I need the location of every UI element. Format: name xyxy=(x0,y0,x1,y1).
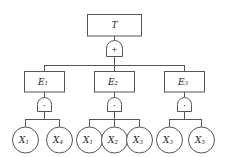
and-gate-2[interactable]: · xyxy=(108,98,122,112)
intermediate-event-node-1[interactable]: E1 xyxy=(25,72,65,93)
diagram-canvas: T + E1 E2 E3 · · xyxy=(0,0,227,157)
and-gate-3[interactable]: · xyxy=(178,98,192,112)
basic-event-node-3-1[interactable]: X3 xyxy=(157,127,183,153)
and-gate-symbol-2: · xyxy=(113,101,116,111)
intermediate-event-node-3[interactable]: E3 xyxy=(165,72,205,93)
basic-event-node-3-2[interactable]: X5 xyxy=(189,127,215,153)
basic-event-node-1-1[interactable]: X1 xyxy=(13,127,39,153)
basic-event-node-1-2[interactable]: X4 xyxy=(47,127,73,153)
top-event-node[interactable]: T xyxy=(88,15,142,37)
and-gate-symbol-1: · xyxy=(43,101,46,111)
basic-event-node-2-3[interactable]: X3 xyxy=(127,127,153,153)
or-gate-top[interactable]: + xyxy=(107,41,123,57)
intermediate-event-node-2[interactable]: E2 xyxy=(95,72,135,93)
basic-event-node-2-1[interactable]: X1 xyxy=(77,127,103,153)
and-gate-1[interactable]: · xyxy=(38,98,52,112)
basic-event-node-2-2[interactable]: X2 xyxy=(102,127,128,153)
fault-tree-diagram: T + E1 E2 E3 · · xyxy=(0,0,227,157)
top-event-label: T xyxy=(111,20,118,30)
and-gate-symbol-3: · xyxy=(183,101,186,111)
or-gate-symbol: + xyxy=(112,46,118,54)
